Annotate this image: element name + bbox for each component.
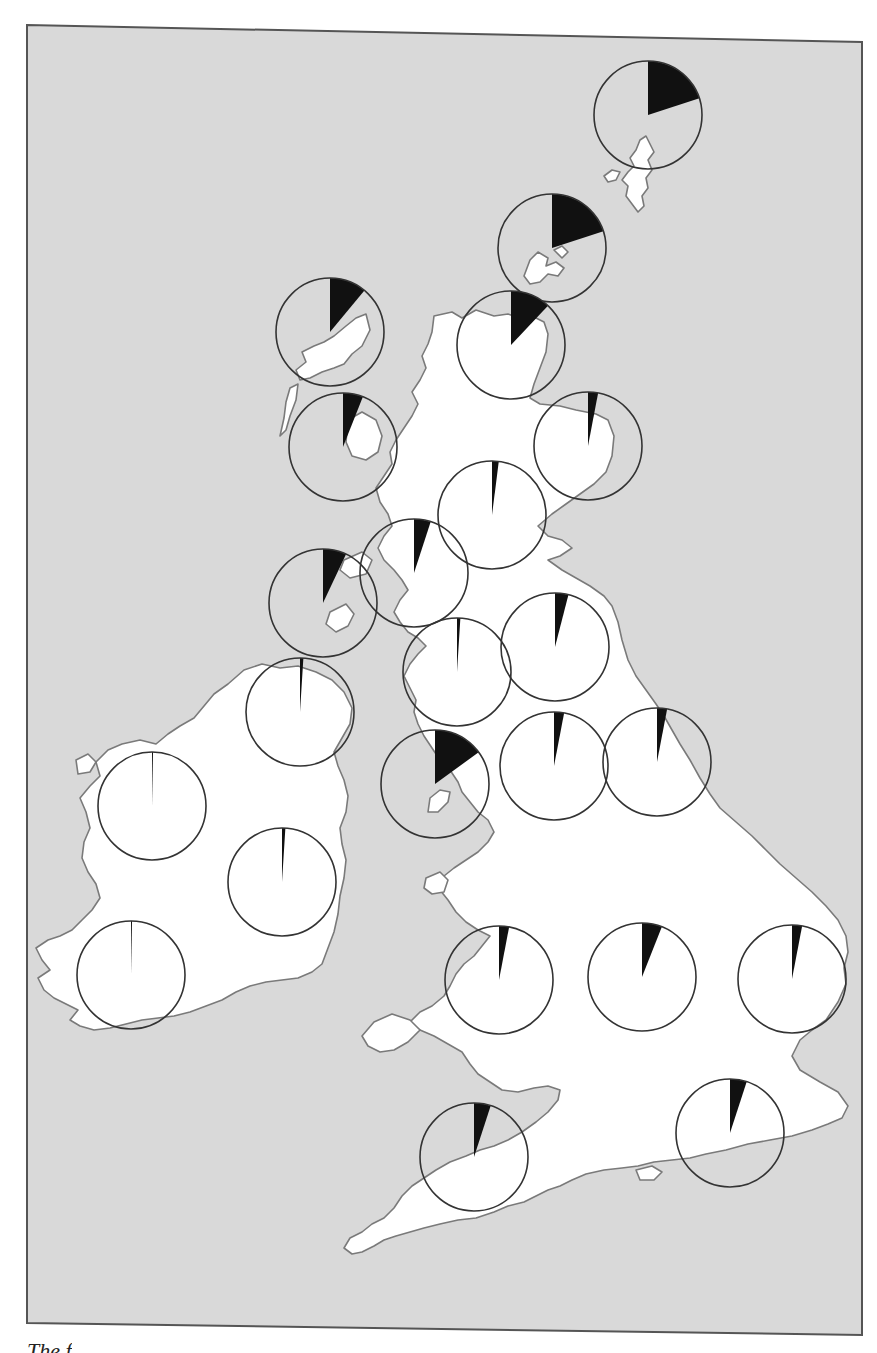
map-figure [0,0,877,1353]
figure-caption: The f [27,1336,72,1353]
